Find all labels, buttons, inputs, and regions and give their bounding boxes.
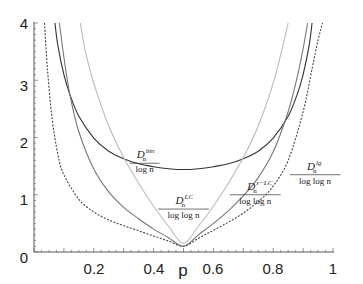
- y-tick-label: 3: [20, 77, 28, 94]
- svg-text:log n: log n: [135, 164, 154, 174]
- x-tick-label: 1: [329, 260, 337, 277]
- y-tick-label: 4: [20, 15, 28, 32]
- line-chart: 0 1 2 3 4 0.2 0.4 0.6 0.8 1 p Dbinnlog n…: [0, 0, 363, 284]
- svg-text:n: n: [253, 187, 257, 195]
- x-tick-label: 0.8: [263, 260, 284, 277]
- svg-text:log log n: log log n: [299, 176, 332, 186]
- svg-text:LC: LC: [184, 193, 194, 201]
- svg-text:bin: bin: [146, 147, 155, 155]
- series-curve: [55, 23, 312, 170]
- svg-text:lg: lg: [316, 159, 322, 167]
- y-tick-label: 1: [20, 191, 28, 208]
- svg-text:n: n: [313, 167, 317, 175]
- y-tick-label: 0: [20, 249, 28, 266]
- curve-annotations: Dbinnlog nDLCnlog log nDε−LCnlog log nDl…: [130, 147, 341, 220]
- svg-text:n: n: [143, 155, 147, 163]
- x-tick-label: 0.6: [203, 260, 224, 277]
- x-tick-label: 0.2: [84, 260, 105, 277]
- annotation-lg: Dlgnlog log n: [290, 159, 341, 186]
- svg-text:ε−LC: ε−LC: [256, 179, 272, 187]
- svg-text:n: n: [182, 201, 186, 209]
- x-tick-label: 0.4: [144, 260, 165, 277]
- annotation-lc: DLCnlog log n: [158, 193, 209, 220]
- svg-text:log log n: log log n: [167, 210, 200, 220]
- annotation-bin: Dbinnlog n: [130, 147, 160, 174]
- y-tick-label: 2: [20, 134, 28, 151]
- svg-text:log log n: log log n: [239, 196, 272, 206]
- x-axis-label: p: [178, 261, 187, 280]
